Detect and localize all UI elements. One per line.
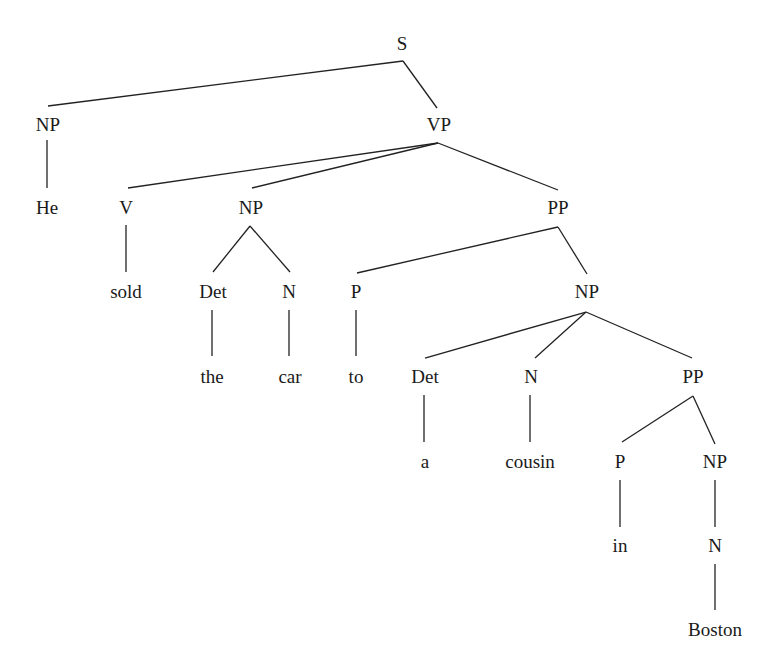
tree-node-det2: Det xyxy=(411,367,438,386)
tree-edge-s-np1 xyxy=(48,61,403,106)
tree-node-v: V xyxy=(119,198,133,217)
tree-node-a: a xyxy=(421,452,429,471)
tree-edge-pp2-p2 xyxy=(622,396,693,442)
syntax-tree: SNPVPHeVNPPPsoldDetNPNPthecartoDetNPPaco… xyxy=(0,0,779,670)
tree-node-det1: Det xyxy=(199,282,226,301)
tree-node-np2: NP xyxy=(239,198,263,217)
tree-node-p1: P xyxy=(351,282,362,301)
tree-node-p2: P xyxy=(615,452,626,471)
tree-edge-pp1-p1 xyxy=(357,227,558,273)
tree-node-pp2: PP xyxy=(682,367,703,386)
tree-edge-np2-det1 xyxy=(213,226,250,272)
tree-node-np1: NP xyxy=(36,115,60,134)
tree-node-np4: NP xyxy=(703,452,727,471)
tree-edge-pp2-np4 xyxy=(693,396,715,444)
tree-node-sold: sold xyxy=(110,282,142,301)
tree-node-n3: N xyxy=(708,536,722,555)
tree-node-cousin: cousin xyxy=(505,452,555,471)
tree-node-he: He xyxy=(36,198,58,217)
tree-node-to: to xyxy=(349,367,364,386)
tree-node-boston: Boston xyxy=(688,620,742,639)
tree-node-s: S xyxy=(397,34,408,53)
tree-node-pp1: PP xyxy=(547,198,568,217)
tree-edge-np3-pp2 xyxy=(586,312,692,358)
tree-edge-np2-n1 xyxy=(250,226,290,272)
tree-edge-pp1-np3 xyxy=(558,227,587,274)
tree-edge-s-vp xyxy=(403,61,437,108)
tree-node-the: the xyxy=(200,367,223,386)
tree-node-car: car xyxy=(278,367,301,386)
tree-node-vp: VP xyxy=(427,115,451,134)
tree-edge-np3-det2 xyxy=(425,312,586,358)
tree-node-n1: N xyxy=(282,282,296,301)
tree-node-np3: NP xyxy=(575,282,599,301)
tree-edge-vp-pp1 xyxy=(438,143,558,190)
tree-edge-vp-v xyxy=(128,143,438,188)
tree-node-n2: N xyxy=(524,367,538,386)
tree-edges xyxy=(0,0,779,670)
tree-node-in: in xyxy=(613,536,628,555)
